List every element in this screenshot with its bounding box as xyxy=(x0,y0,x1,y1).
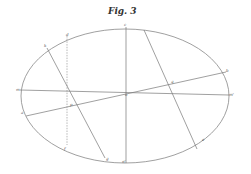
label-d: d xyxy=(66,32,69,37)
chord-line-he xyxy=(144,30,197,149)
label-k: k xyxy=(44,43,47,48)
label-n-prime: n' xyxy=(122,159,126,164)
label-c: c xyxy=(124,22,127,27)
chord-line-kg xyxy=(47,48,105,158)
label-g: g xyxy=(106,156,109,161)
label-b: b xyxy=(226,68,229,73)
label-m: m xyxy=(16,87,20,92)
figure-diagram: Fig. 3 c d k b q m o m' a p f g n' e xyxy=(0,0,251,174)
label-f: f xyxy=(63,146,67,151)
label-q: q xyxy=(171,79,174,84)
label-p: p xyxy=(70,102,73,107)
label-m-prime: m' xyxy=(229,92,234,97)
figure-title: Fig. 3 xyxy=(107,6,137,16)
